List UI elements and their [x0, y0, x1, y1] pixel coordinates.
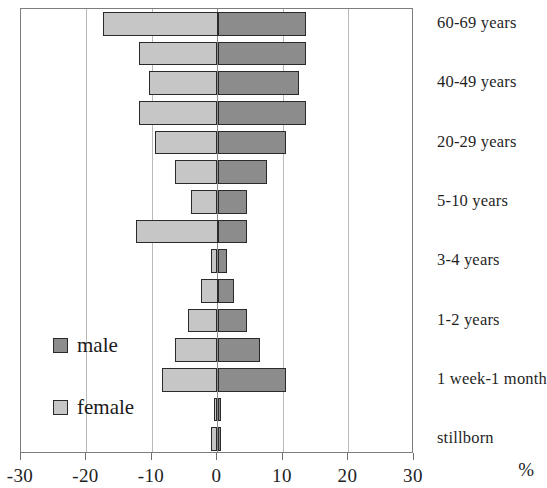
bar-male [218, 160, 267, 184]
category-label: 40-49 years [437, 72, 517, 92]
legend-label: male [77, 333, 118, 358]
bar-male [218, 101, 306, 125]
bar-row [21, 42, 412, 66]
x-tick-label-10: 10 [252, 465, 312, 487]
legend-label: female [77, 395, 134, 420]
bar-female [211, 427, 218, 451]
category-label: 20-29 years [437, 132, 517, 152]
bar-female [211, 249, 218, 273]
category-label: 1-2 years [437, 310, 500, 330]
bar-male [218, 42, 306, 66]
x-tick-label--30: -30 [0, 465, 50, 487]
bar-row [21, 368, 412, 392]
bar-row [21, 12, 412, 36]
legend-swatch-icon [53, 338, 68, 353]
bar-male [218, 338, 261, 362]
legend-swatch-icon [53, 400, 68, 415]
bar-female [201, 279, 217, 303]
bar-male [218, 190, 247, 214]
bar-female [162, 368, 218, 392]
plot-area [20, 8, 413, 453]
bar-row [21, 101, 412, 125]
bar-male [218, 12, 306, 36]
bar-row [21, 249, 412, 273]
legend-item-male[interactable]: male [53, 333, 118, 358]
bar-male [218, 427, 221, 451]
x-tick-label-30: 30 [383, 465, 443, 487]
tick-0 [216, 453, 217, 460]
bar-row [21, 71, 412, 95]
bar-male [218, 131, 287, 155]
bar-male [218, 279, 234, 303]
bar-female [103, 12, 218, 36]
bar-row [21, 220, 412, 244]
bar-male [218, 309, 247, 333]
bar-row [21, 427, 412, 451]
bar-series-group [21, 9, 412, 452]
bar-female [191, 190, 217, 214]
bar-male [218, 398, 221, 422]
tick--20 [85, 453, 86, 460]
bar-male [218, 249, 228, 273]
bar-row [21, 279, 412, 303]
category-label: 3-4 years [437, 250, 500, 270]
bar-male [218, 71, 300, 95]
bar-row [21, 190, 412, 214]
bar-female [136, 220, 218, 244]
category-label: 60-69 years [437, 13, 517, 33]
bar-male [218, 368, 287, 392]
category-label: 5-10 years [437, 191, 508, 211]
tick-10 [282, 453, 283, 460]
bar-male [218, 220, 247, 244]
bar-female [175, 160, 218, 184]
tick--10 [151, 453, 152, 460]
category-label: stillborn [437, 428, 494, 448]
tick-30 [413, 453, 414, 460]
bar-female [188, 309, 217, 333]
x-tick-label-0: 0 [187, 465, 247, 487]
x-tick-label-20: 20 [318, 465, 378, 487]
x-tick-label--20: -20 [56, 465, 116, 487]
tick--30 [20, 453, 21, 460]
bar-row [21, 309, 412, 333]
bar-row [21, 160, 412, 184]
x-tick-label--10: -10 [121, 465, 181, 487]
tick-20 [347, 453, 348, 460]
bar-female [155, 131, 217, 155]
legend-item-female[interactable]: female [53, 395, 134, 420]
x-axis-unit-label: % [518, 459, 534, 481]
bar-female [149, 71, 218, 95]
category-label: 1 week-1 month [437, 369, 547, 389]
bar-female [139, 42, 218, 66]
bar-female [175, 338, 218, 362]
bar-female [139, 101, 218, 125]
bar-row [21, 131, 412, 155]
